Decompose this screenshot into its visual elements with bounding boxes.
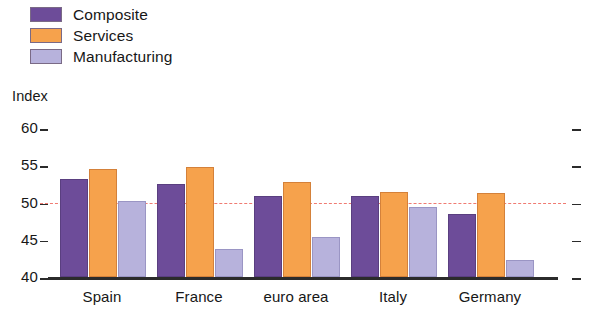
bar-manufacturing-germany: [506, 260, 534, 277]
bar-composite-euro-area: [254, 196, 282, 277]
bar-manufacturing-france: [215, 249, 243, 277]
y-axis-tick-mark-left: [40, 241, 48, 243]
bar-services-germany: [477, 193, 505, 277]
y-axis-tick-label: 60: [8, 119, 38, 136]
bar-composite-germany: [448, 214, 476, 277]
bar-services-euro-area: [283, 182, 311, 277]
y-axis-tick-mark-right: [572, 278, 581, 280]
y-axis-tick-mark-left: [40, 204, 48, 206]
bar-services-france: [186, 167, 214, 277]
y-axis-tick-mark-right: [572, 129, 581, 131]
bar-services-spain: [89, 169, 117, 277]
y-axis-tick-mark-left: [40, 278, 48, 280]
y-axis-tick-mark-left: [40, 129, 48, 131]
y-axis-tick-mark-right: [572, 204, 581, 206]
bar-services-italy: [380, 192, 408, 277]
y-axis-tick-mark-right: [572, 241, 581, 243]
bar-composite-france: [157, 184, 185, 277]
bar-manufacturing-spain: [118, 201, 146, 277]
bar-manufacturing-euro-area: [312, 237, 340, 277]
y-axis-tick-label: 40: [8, 268, 38, 285]
bar-composite-italy: [351, 196, 379, 277]
y-axis-tick-mark-left: [40, 166, 48, 168]
bar-composite-spain: [60, 179, 88, 277]
y-axis-tick-mark-right: [572, 166, 581, 168]
bar-chart-plot: 6055504540SpainFranceeuro areaItalyGerma…: [0, 0, 589, 311]
y-axis-tick-label: 45: [8, 231, 38, 248]
bar-manufacturing-italy: [409, 207, 437, 277]
x-axis-category-label: Germany: [432, 288, 548, 305]
x-axis-baseline: [48, 277, 558, 280]
y-axis-tick-label: 55: [8, 156, 38, 173]
y-axis-tick-label: 50: [8, 194, 38, 211]
